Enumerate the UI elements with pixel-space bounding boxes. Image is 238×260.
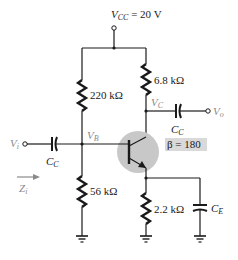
input-cap-label: CC <box>46 155 59 169</box>
transistor-highlight <box>117 131 159 173</box>
zi-arrow-icon <box>33 174 40 180</box>
rc-label: 6.8 kΩ <box>154 74 184 86</box>
beta-label: β = 180 <box>167 138 201 150</box>
resistor-r1 <box>78 80 86 111</box>
r1-label: 220 kΩ <box>90 89 123 101</box>
ground-icon <box>140 236 152 242</box>
vc-label: VC <box>151 96 164 110</box>
resistor-rc <box>142 64 150 95</box>
resistor-re <box>142 193 150 224</box>
ground-icon <box>194 236 206 242</box>
resistor-r2 <box>78 176 86 207</box>
vb-label: VB <box>87 129 99 143</box>
r2-label: 56 kΩ <box>90 185 117 197</box>
vi-label: Vi <box>10 137 19 151</box>
bypass-cap-label: CE <box>211 202 223 216</box>
vo-label: Vo <box>213 105 224 119</box>
vcc-terminal <box>112 26 116 30</box>
zi-label: Zi <box>19 182 27 196</box>
vi-terminal <box>23 142 27 146</box>
ground-icon <box>76 236 88 242</box>
junction-dot <box>112 46 115 49</box>
vcc-label: VCC = 20 V <box>111 8 162 22</box>
vo-terminal <box>206 109 210 113</box>
re-label: 2.2 kΩ <box>154 203 184 215</box>
output-cap-label: CC <box>171 123 184 137</box>
circuit-diagram: VCC = 20 V 220 kΩ 6.8 kΩ VC Vo CC β = 18… <box>0 0 238 260</box>
